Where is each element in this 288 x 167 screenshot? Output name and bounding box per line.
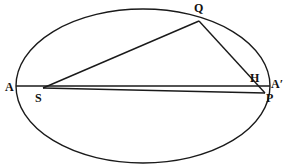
point-label-a-prime: A′ [271,78,283,90]
segment-s-to-p [43,88,265,93]
segment-s-to-q [43,21,199,88]
point-label-q: Q [194,2,203,14]
figure-canvas [0,0,288,167]
point-label-h: H [250,72,259,84]
geometry-figure: A S Q H A′ P [0,0,288,167]
point-label-s: S [35,92,42,104]
point-label-a: A [5,81,14,93]
point-label-p: P [266,92,273,104]
